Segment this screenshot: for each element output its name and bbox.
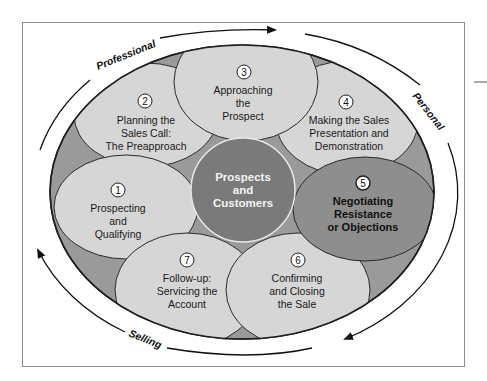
sales-process-diagram: Professional Personal Selling Prospects … <box>0 0 487 381</box>
step-2-number: 2 <box>142 96 148 107</box>
step-1-line2: and <box>109 215 127 227</box>
step-5-number: 5 <box>360 178 366 189</box>
step-6-number: 6 <box>295 255 301 266</box>
step-7-line2: Servicing the <box>157 285 218 297</box>
step-7-line1: Follow-up: <box>163 272 211 284</box>
step-2-line1: Planning the <box>117 114 176 126</box>
step-1-line1: Prospecting <box>90 202 146 214</box>
center-label-line3: Customers <box>213 197 273 209</box>
step-1-number: 1 <box>115 185 121 196</box>
step-3-line3: Prospect <box>222 110 264 122</box>
step-5-line1: Negotiating <box>333 195 394 207</box>
step-5-line2: Resistance <box>334 208 392 220</box>
step-4-line3: Demonstration <box>315 140 383 152</box>
step-1-line3: Qualifying <box>95 228 142 240</box>
step-2-line3: The Preapproach <box>105 140 186 152</box>
step-6-line3: the Sale <box>278 298 317 310</box>
step-3-line1: Approaching <box>214 84 273 96</box>
step-4-line2: Presentation and <box>309 127 389 139</box>
step-4-number: 4 <box>343 97 349 108</box>
center-label-line1: Prospects <box>215 171 271 183</box>
step-2-line2: Sales Call: <box>121 127 171 139</box>
step-7-number: 7 <box>184 255 190 266</box>
step-5-line3: or Objections <box>328 221 399 233</box>
step-3-line2: the <box>236 97 251 109</box>
step-6-line1: Confirming <box>272 272 323 284</box>
center-label-line2: and <box>233 184 253 196</box>
step-7-line3: Account <box>168 298 206 310</box>
step-3-number: 3 <box>241 67 247 78</box>
step-6-line2: and Closing <box>269 285 325 297</box>
step-4-line1: Making the Sales <box>309 114 390 126</box>
